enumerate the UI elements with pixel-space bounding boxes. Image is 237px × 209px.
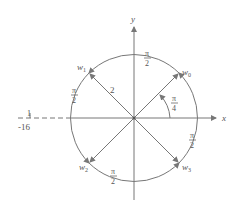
tick-numerator: 1 [27, 109, 31, 118]
vector-w2 [90, 118, 134, 162]
svg-text:2: 2 [145, 59, 149, 68]
angle-label: π 4 [171, 94, 178, 113]
x-axis-label: x [221, 113, 226, 123]
svg-text:π: π [145, 49, 149, 58]
svg-text:2: 2 [72, 96, 76, 105]
y-axis-label: y [130, 14, 135, 24]
arc-label-top: π 2 [144, 49, 151, 68]
svg-text:π: π [172, 94, 176, 103]
label-w0: w0 [182, 67, 191, 78]
svg-text:2: 2 [190, 141, 194, 150]
svg-text:π: π [190, 131, 194, 140]
svg-text:π: π [72, 86, 76, 95]
label-w2: w2 [79, 162, 88, 173]
label-w3: w3 [182, 162, 191, 173]
svg-text:π: π [111, 167, 115, 176]
label-w1: w1 [77, 62, 86, 73]
tick-label: -16 [18, 122, 30, 132]
svg-text:4: 4 [172, 104, 176, 113]
roots-diagram: y x 1 -16 2 w0 w1 w2 w3 π 4 π 2 π 2 π 2 … [0, 0, 237, 209]
vector-w1 [90, 74, 134, 118]
origin-dot [133, 117, 136, 120]
arc-label-bottom: π 2 [110, 167, 117, 186]
vector-w3 [134, 118, 178, 162]
arc-label-right: π 2 [189, 131, 196, 150]
svg-text:2: 2 [111, 177, 115, 186]
radius-label: 2 [110, 85, 115, 95]
angle-arc [160, 95, 170, 118]
